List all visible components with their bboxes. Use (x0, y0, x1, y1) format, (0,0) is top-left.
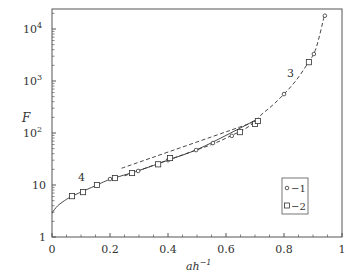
legend-circle-marker-icon (285, 186, 289, 190)
chart: 110102103104 00.20.40.60.81 F ah−1 3 4 −… (0, 0, 355, 280)
circle-marker-icon (282, 92, 286, 96)
x-tick-label: 0.4 (159, 243, 177, 256)
square-marker-icon (156, 162, 161, 167)
curve-4 (52, 120, 255, 213)
circle-marker-icon (323, 14, 327, 18)
x-axis-label: ah−1 (186, 258, 211, 273)
square-marker-icon (255, 118, 260, 123)
curve-4-label: 4 (78, 171, 85, 184)
circle-marker-icon (108, 177, 112, 181)
curve-straight-fit (122, 120, 261, 169)
x-tick-label: 1 (339, 243, 346, 256)
y-axis-ticks: 110102103104 (23, 13, 56, 244)
curve-3 (125, 15, 325, 176)
y-axis-label: F (21, 111, 31, 125)
legend-square-marker-icon (285, 203, 290, 208)
x-tick-label: 0.8 (275, 243, 293, 256)
square-marker-icon (167, 155, 172, 160)
y-tick-label: 103 (23, 73, 42, 88)
circle-marker-icon (194, 148, 198, 152)
x-tick-label: 0 (49, 243, 56, 256)
square-marker-icon (237, 130, 242, 135)
legend-item-1: −1 (291, 183, 306, 194)
square-marker-icon (112, 175, 117, 180)
x-axis-label-exponent: −1 (200, 258, 212, 267)
y-tick-label: 1 (39, 231, 46, 244)
circle-marker-icon (211, 141, 215, 145)
curve-3-label: 3 (287, 67, 294, 80)
square-marker-icon (69, 194, 74, 199)
circle-marker-icon (230, 134, 234, 138)
x-axis-label-base: ah (186, 260, 200, 273)
square-marker-icon (129, 170, 134, 175)
legend: −1 −2 (282, 178, 308, 214)
x-axis-ticks: 00.20.40.60.81 (49, 233, 346, 256)
circle-marker-icon (312, 52, 316, 56)
square-marker-icon (306, 60, 311, 65)
circle-marker-icon (136, 169, 140, 173)
square-marker-icon (94, 182, 99, 187)
legend-item-2: −2 (291, 201, 306, 212)
data-markers (69, 14, 326, 199)
x-tick-label: 0.6 (217, 243, 235, 256)
y-tick-label: 10 (32, 179, 46, 192)
y-tick-label: 104 (23, 21, 42, 36)
y-tick-label: 102 (23, 125, 42, 140)
x-tick-label: 0.2 (101, 243, 119, 256)
square-marker-icon (80, 190, 85, 195)
